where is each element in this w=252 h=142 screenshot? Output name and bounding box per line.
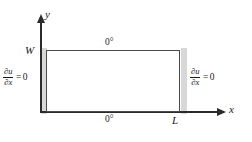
domain-length-label: L (172, 115, 178, 126)
right-insulation-band (181, 48, 187, 114)
bottom-edge-temperature-label: 0° (105, 115, 114, 125)
y-axis-arrowhead-icon (37, 14, 45, 23)
right-bc-fraction: ∂u ∂x (190, 67, 200, 87)
y-axis-label: y (45, 9, 50, 20)
domain-width-label: W (25, 45, 34, 56)
right-bc-equals-sign: = (203, 72, 208, 82)
right-bc-denominator: ∂x (190, 78, 200, 87)
left-boundary-condition: ∂u ∂x = 0 (3, 67, 28, 87)
left-bc-fraction: ∂u ∂x (3, 67, 13, 87)
left-bc-numerator: ∂u (3, 67, 13, 76)
boundary-value-problem-figure: y x 0° 0° W L ∂u ∂x = 0 ∂u ∂x = 0 (0, 0, 252, 142)
right-boundary-condition: ∂u ∂x = 0 (190, 67, 215, 87)
y-axis-line (40, 22, 42, 113)
left-bc-value: 0 (23, 72, 28, 82)
right-bc-numerator: ∂u (190, 67, 200, 76)
x-axis-label: x (229, 104, 234, 115)
right-bc-value: 0 (210, 72, 215, 82)
left-bc-denominator: ∂x (3, 78, 13, 87)
top-edge-temperature-label: 0° (105, 38, 114, 48)
domain-rectangle (46, 50, 180, 112)
x-axis-arrowhead-icon (217, 108, 226, 116)
left-bc-equals-sign: = (16, 72, 21, 82)
